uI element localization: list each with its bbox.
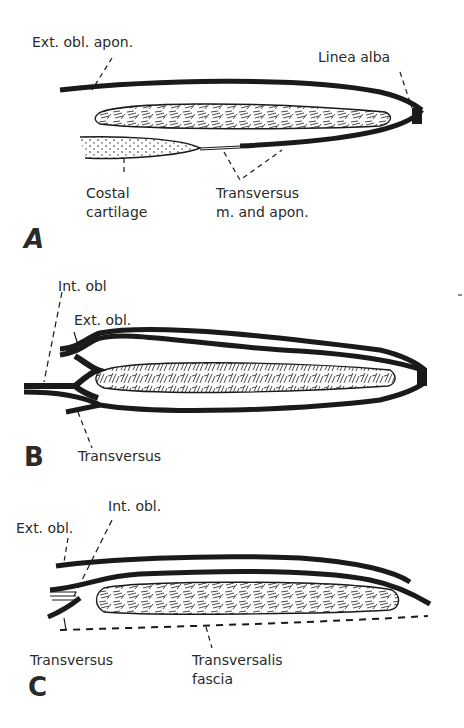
label-int-obl: Int. obl. <box>108 498 161 515</box>
label-costal-cartilage-line2: cartilage <box>86 204 147 221</box>
label-ext-obl: Ext. obl. <box>16 520 73 537</box>
label-transversus-m-apon-line2: m. and apon. <box>216 204 309 221</box>
label-int-obl: Int. obl <box>58 278 107 295</box>
diagram-drawing <box>0 0 464 728</box>
label-transversus: Transversus <box>78 448 161 465</box>
label-transversalis-fascia-line2: fascia <box>192 671 233 688</box>
label-transversalis-fascia-line1: Transversalis <box>192 652 283 669</box>
panel-letter-a: A <box>24 224 44 254</box>
label-linea-alba: Linea alba <box>318 49 390 66</box>
figure: Ext. obl. apon. Linea alba Costal cartil… <box>0 0 464 728</box>
label-ext-obl-apon: Ext. obl. apon. <box>32 34 133 51</box>
panel-letter-c: C <box>28 672 47 702</box>
panel-letter-b: B <box>24 442 44 472</box>
label-transversus: Transversus <box>30 652 113 669</box>
panel-a-drawing <box>60 58 422 180</box>
label-transversus-m-apon-line1: Transversus <box>216 185 299 202</box>
label-ext-obl: Ext. obl. <box>74 312 131 329</box>
label-costal-cartilage-line1: Costal <box>86 185 130 202</box>
panel-c-drawing <box>48 520 430 648</box>
